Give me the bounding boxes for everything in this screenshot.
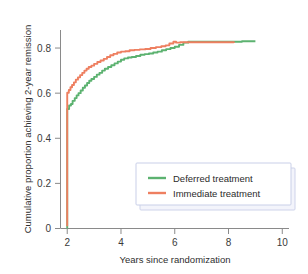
chart-figure: 00.20.40.60.8 246810 Years since randomi… bbox=[0, 0, 308, 274]
legend-label-1: Immediate treatment bbox=[173, 188, 260, 199]
chart-legend[interactable]: Deferred treatmentImmediate treatment bbox=[136, 163, 295, 210]
chart-plot-area: 00.20.40.60.8 246810 Years since randomi… bbox=[0, 0, 308, 274]
y-axis-ticks: 00.20.40.60.8 bbox=[37, 43, 60, 234]
legend-box bbox=[136, 163, 291, 205]
y-axis-title: Cumulative proportion achieving 2-year r… bbox=[22, 25, 33, 234]
legend-label-0: Deferred treatment bbox=[173, 173, 253, 184]
y-tick-label: 0 bbox=[45, 223, 51, 234]
x-tick-label: 2 bbox=[64, 237, 70, 248]
y-tick-label: 0.8 bbox=[37, 43, 51, 54]
x-axis-title: Years since randomization bbox=[119, 254, 230, 265]
y-tick-label: 0.4 bbox=[37, 133, 51, 144]
y-tick-label: 0.2 bbox=[37, 178, 51, 189]
x-tick-label: 8 bbox=[226, 237, 232, 248]
x-tick-label: 6 bbox=[172, 237, 178, 248]
y-tick-label: 0.6 bbox=[37, 88, 51, 99]
x-axis-ticks: 246810 bbox=[64, 229, 288, 249]
x-tick-label: 10 bbox=[277, 237, 289, 248]
x-tick-label: 4 bbox=[118, 237, 124, 248]
